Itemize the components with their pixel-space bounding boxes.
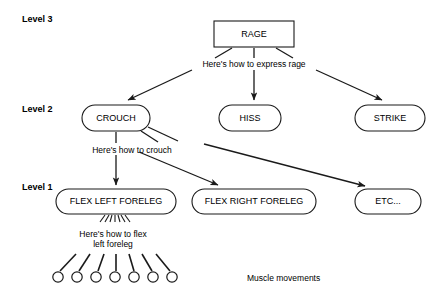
edge-label-how-to-flex-line1: Here's how to flex — [79, 229, 147, 239]
edge-label-express-rage: Here's how to express rage — [202, 59, 305, 69]
diagram-root: Level 3 Level 2 Level 1 — [0, 0, 447, 296]
node-crouch[interactable]: CROUCH — [82, 105, 150, 131]
level-label-3: Level 3 — [22, 14, 53, 24]
node-label-flex-right-foreleg: FLEX RIGHT FORELEG — [205, 196, 303, 206]
node-label-rage: RAGE — [241, 29, 267, 39]
node-label-hiss: HISS — [239, 113, 260, 123]
node-etc[interactable]: ETC... — [355, 189, 421, 214]
node-label-flex-left-foreleg: FLEX LEFT FORELEG — [70, 196, 162, 206]
edge-label-how-to-crouch: Here's how to crouch — [92, 145, 172, 155]
node-label-crouch: CROUCH — [96, 113, 136, 123]
node-flex-left-foreleg[interactable]: FLEX LEFT FORELEG — [56, 189, 176, 214]
node-flex-right-foreleg[interactable]: FLEX RIGHT FORELEG — [192, 189, 316, 214]
level-label-2: Level 2 — [22, 104, 53, 114]
level-label-1: Level 1 — [22, 182, 53, 192]
node-label-etc: ETC... — [375, 196, 401, 206]
node-hiss[interactable]: HISS — [219, 105, 281, 131]
node-rage[interactable]: RAGE — [214, 21, 294, 47]
caption-muscle-movements: Muscle movements — [247, 273, 320, 283]
behavior-hierarchy-diagram: Level 3 Level 2 Level 1 — [0, 0, 447, 296]
node-label-strike: STRIKE — [374, 113, 407, 123]
node-strike[interactable]: STRIKE — [355, 105, 425, 131]
edge-label-how-to-flex-line2: left foreleg — [93, 239, 133, 249]
